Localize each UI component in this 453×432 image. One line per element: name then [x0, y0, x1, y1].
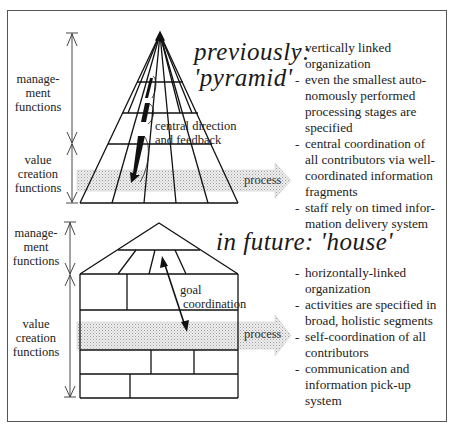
- bullet-line: information pick-up: [305, 377, 448, 393]
- label-line: creation: [6, 331, 66, 345]
- bullet-line: broad, holistic segments: [305, 313, 448, 329]
- label-line: manage-: [8, 72, 68, 86]
- bullet-item: central coordination ofall contributors …: [293, 136, 448, 200]
- top-bullet-list: vertically linkedorganization even the s…: [293, 40, 448, 232]
- annotation-line: central direction: [155, 119, 237, 133]
- bullet-line: self-coordination of all: [305, 329, 448, 345]
- label-line: ment: [8, 86, 68, 100]
- bullet-line: system: [305, 393, 448, 409]
- annotation-line: coordination: [180, 297, 246, 311]
- bullet-line: central coordination of: [305, 136, 448, 152]
- label-line: ment: [6, 240, 66, 254]
- bottom-title: in future: 'house': [216, 230, 393, 254]
- bullet-line: fragments: [305, 184, 448, 200]
- central-direction-annotation: central direction and feedback: [155, 119, 237, 147]
- bottom-value-creation-label: value creation functions: [6, 317, 66, 359]
- bullet-line: organization: [305, 56, 448, 72]
- bullet-line: nomously performed: [305, 88, 448, 104]
- goal-coordination-annotation: goal coordination: [180, 283, 246, 311]
- bullet-line: all contributors via well-: [305, 152, 448, 168]
- bullet-line: even the smallest auto-: [305, 72, 448, 88]
- bottom-bullet-list: horizontally-linkedorganization activiti…: [293, 265, 448, 409]
- top-value-creation-label: value creation functions: [8, 153, 68, 195]
- bullet-line: activities are specified in: [305, 297, 448, 313]
- top-process-label: process: [244, 173, 282, 188]
- annotation-line: and feedback: [155, 133, 237, 147]
- bullet-item: self-coordination of allcontributors: [293, 329, 448, 361]
- label-line: manage-: [6, 226, 66, 240]
- bottom-process-label: process: [244, 327, 282, 342]
- label-line: functions: [8, 100, 68, 114]
- bullet-item: communication andinformation pick-upsyst…: [293, 361, 448, 409]
- label-line: functions: [8, 181, 68, 195]
- label-line: functions: [6, 254, 66, 268]
- label-line: creation: [8, 167, 68, 181]
- label-line: functions: [6, 345, 66, 359]
- bullet-line: coordinated information: [305, 168, 448, 184]
- bullet-item: vertically linkedorganization: [293, 40, 448, 72]
- bullet-item: even the smallest auto-nomously performe…: [293, 72, 448, 136]
- bullet-line: horizontally-linked: [305, 265, 448, 281]
- bullet-line: contributors: [305, 345, 448, 361]
- bullet-item: activities are specified inbroad, holist…: [293, 297, 448, 329]
- bullet-line: organization: [305, 281, 448, 297]
- bullet-item: horizontally-linkedorganization: [293, 265, 448, 297]
- bottom-management-label: manage- ment functions: [6, 226, 66, 268]
- label-line: value: [6, 317, 66, 331]
- label-line: value: [8, 153, 68, 167]
- bullet-line: vertically linked: [305, 40, 448, 56]
- annotation-line: goal: [180, 283, 246, 297]
- top-management-label: manage- ment functions: [8, 72, 68, 114]
- bullet-line: processing stages are: [305, 104, 448, 120]
- bullet-line: staff rely on timed infor-: [305, 200, 448, 216]
- bullet-line: specified: [305, 120, 448, 136]
- bullet-line: communication and: [305, 361, 448, 377]
